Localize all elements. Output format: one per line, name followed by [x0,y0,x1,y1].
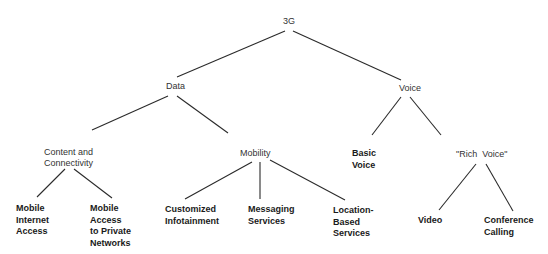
node-mobile-access-private-networks: Mobile Access to Private Networks [90,203,131,249]
node-3g-label: 3G [283,16,295,26]
node-customized-infotainment: Customized Infotainment [165,204,219,227]
node-mobile-internet-line-1: Mobile [16,203,49,215]
node-conference-line-1: Conference [484,215,534,227]
edge-rich-video [439,164,476,210]
node-infotainment-line-2: Infotainment [165,216,219,228]
edge-data-content [92,96,168,130]
node-voice: Voice [399,83,421,94]
node-video-label: Video [418,215,442,225]
node-data: Data [166,81,185,92]
edge-mobility-location [270,160,345,200]
node-messaging-services: Messaging Services [248,204,295,227]
node-messaging-line-1: Messaging [248,204,295,216]
node-location-line-3: Services [333,228,374,240]
node-basic-voice: Basic Voice [352,148,376,171]
node-3g: 3G [283,16,295,27]
node-data-label: Data [166,81,185,91]
node-mobile-access-line-4: Networks [90,238,131,250]
node-infotainment-line-1: Customized [165,204,219,216]
node-conference-line-2: Calling [484,227,534,239]
node-mobility-label: Mobility [240,148,271,158]
node-mobile-internet-line-2: Internet [16,215,49,227]
node-location-line-2: Based [333,217,374,229]
edge-3g-data [177,31,285,77]
node-voice-label: Voice [399,83,421,93]
node-conference-calling: Conference Calling [484,215,534,238]
node-basic-voice-line-2: Voice [352,160,376,172]
node-mobile-access-line-2: Access [90,215,131,227]
node-content-line-2: Connectivity [44,158,93,169]
tree-diagram: 3G Data Voice Content and Connectivity M… [0,0,548,254]
edge-voice-rich [410,97,441,135]
node-mobility: Mobility [240,148,271,159]
node-basic-voice-line-1: Basic [352,148,376,160]
edge-rich-conference [486,164,513,211]
node-rich-voice-label: "Rich Voice" [456,149,507,159]
edge-data-mobility [177,96,228,133]
edge-content-internet [37,169,65,197]
node-content-line-1: Content and [44,147,93,158]
node-mobile-internet-access: Mobile Internet Access [16,203,49,238]
node-content-connectivity: Content and Connectivity [44,147,93,169]
node-location-based-services: Location- Based Services [333,205,374,240]
node-mobile-access-line-3: to Private [90,226,131,238]
node-mobile-internet-line-3: Access [16,226,49,238]
node-messaging-line-2: Services [248,216,295,228]
node-rich-voice: "Rich Voice" [456,149,507,160]
edge-content-access [74,169,112,198]
edge-mobility-infotainment [185,162,252,199]
node-location-line-1: Location- [333,205,374,217]
node-mobile-access-line-1: Mobile [90,203,131,215]
node-video: Video [418,215,442,227]
edge-3g-voice [293,31,401,80]
edge-voice-basic [372,97,401,135]
